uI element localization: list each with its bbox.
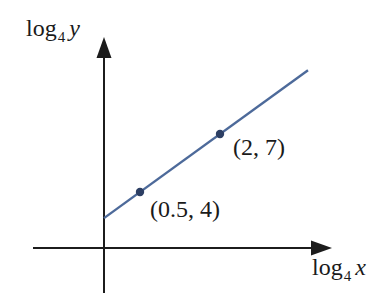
y-axis-label: log4y (26, 16, 80, 40)
x-axis-label-func: log (312, 254, 343, 280)
log-log-line-plot: log4y log4x (0.5, 4) (2, 7) (0, 0, 389, 297)
x-axis-label-base: 4 (344, 268, 352, 284)
data-point-2 (216, 130, 224, 138)
y-axis-label-variable: y (69, 15, 80, 41)
x-axis-label-variable: x (355, 254, 366, 280)
y-axis-label-base: 4 (58, 29, 66, 45)
y-axis-arrowhead (97, 37, 112, 58)
point-label-1: (0.5, 4) (150, 196, 220, 222)
point-label-2: (2, 7) (233, 134, 285, 160)
x-axis-label: log4x (312, 255, 366, 279)
y-axis-label-func: log (26, 15, 57, 41)
data-point-1 (136, 188, 144, 196)
